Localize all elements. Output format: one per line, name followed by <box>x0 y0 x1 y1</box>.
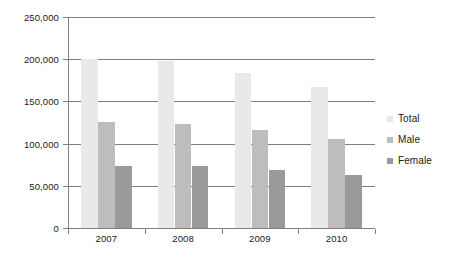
y-axis-tick-label: 50,000 <box>29 180 59 191</box>
x-axis-tick-label-2010: 2010 <box>326 233 348 244</box>
bar-male-2007 <box>98 122 115 228</box>
legend-label: Female <box>398 155 432 166</box>
chart-legend: TotalMaleFemale <box>387 110 457 173</box>
y-axis-tick-label: 250,000 <box>24 12 59 23</box>
x-axis-tick-label-2008: 2008 <box>172 233 194 244</box>
x-axis-tick <box>375 229 376 234</box>
legend-label: Male <box>398 134 420 145</box>
bar-chart: 250,000200,000150,000100,00050,0000 2007… <box>0 0 458 258</box>
legend-item-male: Male <box>387 131 457 148</box>
y-axis-tick <box>63 186 68 187</box>
bar-total-2009 <box>235 73 252 228</box>
x-axis-tick <box>298 229 299 234</box>
y-axis-tick <box>63 17 68 18</box>
y-axis-tick-label: 0 <box>54 223 59 234</box>
y-axis-tick-label: 200,000 <box>24 54 59 65</box>
bar-female-2009 <box>269 170 286 228</box>
legend-swatch-icon <box>387 116 393 122</box>
legend-item-female: Female <box>387 152 457 169</box>
bar-total-2010 <box>311 87 328 228</box>
bars-layer <box>68 17 375 228</box>
legend-swatch-icon <box>387 158 393 164</box>
y-axis-tick <box>63 59 68 60</box>
bar-male-2010 <box>328 139 345 228</box>
y-axis-tick-label: 150,000 <box>24 96 59 107</box>
bar-total-2007 <box>81 59 98 228</box>
x-axis-tick <box>222 229 223 234</box>
legend-item-total: Total <box>387 110 457 127</box>
x-axis-tick <box>145 229 146 234</box>
bar-male-2008 <box>175 124 192 228</box>
bar-female-2008 <box>192 166 209 228</box>
legend-label: Total <box>398 113 420 124</box>
y-axis-labels: 250,000200,000150,000100,00050,0000 <box>0 0 59 258</box>
y-axis-tick <box>63 144 68 145</box>
y-axis-tick <box>63 228 68 229</box>
x-axis-tick-label-2007: 2007 <box>96 233 118 244</box>
bar-female-2007 <box>115 166 132 228</box>
bar-female-2010 <box>345 175 362 228</box>
bar-male-2009 <box>252 130 269 228</box>
legend-swatch-icon <box>387 137 393 143</box>
y-axis-tick <box>63 101 68 102</box>
x-axis-tick <box>68 229 69 234</box>
x-axis-tick-label-2009: 2009 <box>249 233 271 244</box>
y-axis-tick-label: 100,000 <box>24 138 59 149</box>
bar-total-2008 <box>158 61 175 228</box>
